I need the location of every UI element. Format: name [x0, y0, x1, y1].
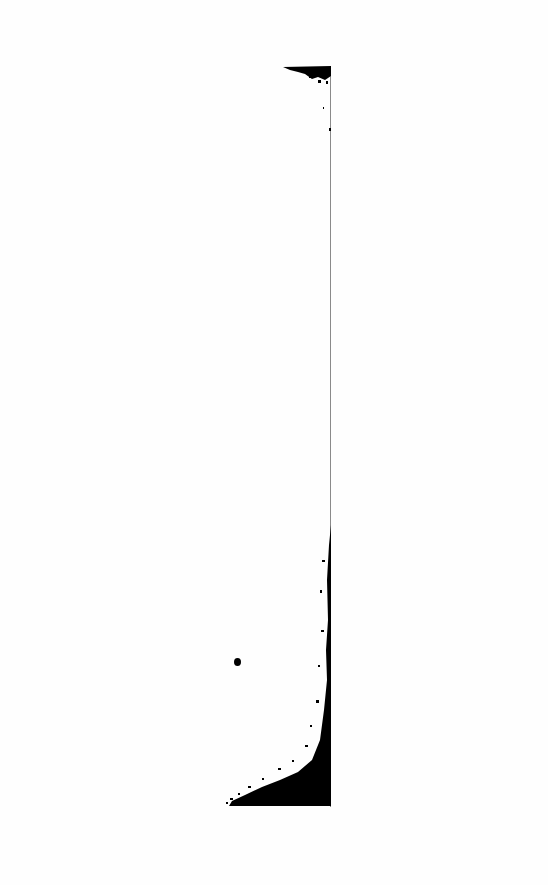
scan-canvas — [0, 0, 548, 885]
bottom-mass — [226, 525, 331, 806]
isolated-dot — [234, 658, 241, 666]
top-cluster — [283, 66, 331, 131]
ink-shapes — [0, 0, 548, 885]
